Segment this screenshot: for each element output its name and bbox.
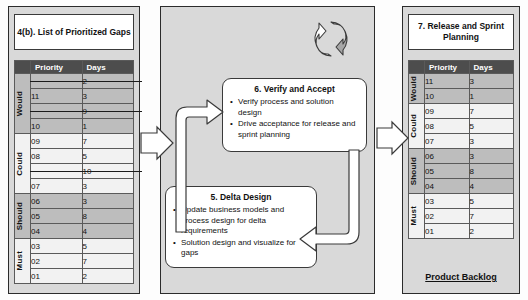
box6-bullet-2: Drive acceptance for release and sprint … (230, 119, 359, 140)
priority-cell: 04 (31, 224, 83, 239)
table-row: Should063 (15, 194, 134, 209)
process-box-delta-design: 5. Delta Design Update business models a… (165, 186, 317, 268)
table-row: 073 (409, 134, 514, 149)
days-cell: 4 (82, 224, 134, 239)
days-cell: 10 (82, 164, 134, 179)
priority-cell: 06 (425, 149, 470, 164)
box5-bullet-2: Solution design and visualize for gaps (173, 238, 309, 259)
days-cell: 5 (82, 149, 134, 164)
category-cell-would: Would (409, 74, 425, 104)
product-backlog-table: PriorityDaysWould113101Could097085073Sho… (408, 60, 514, 239)
days-cell: 5 (469, 194, 514, 209)
days-cell: 2 (82, 269, 134, 284)
priority-cell: 10 (425, 89, 470, 104)
days-cell: 5 (469, 119, 514, 134)
category-cell-must: Must (15, 239, 31, 284)
box6-heading: 6. Verify and Accept (230, 84, 359, 94)
table-row: Could097 (15, 134, 134, 149)
table-row: 101 (15, 119, 134, 134)
priority-cell: 09 (31, 134, 83, 149)
category-label: Must (409, 206, 418, 225)
priority-cell: 03 (425, 194, 470, 209)
box6-bullets: Verify process and solution design Drive… (230, 97, 359, 140)
product-backlog-label: Product Backlog (408, 272, 514, 282)
category-cell-must: Must (409, 194, 425, 239)
priority-cell: 01 (31, 269, 83, 284)
box6-bullet-1: Verify process and solution design (230, 97, 359, 118)
days-cell: 3 (82, 179, 134, 194)
days-cell: 8 (82, 209, 134, 224)
table-row: 012 (409, 224, 514, 239)
days-cell: 3 (469, 134, 514, 149)
column-header-priority: Priority (31, 61, 83, 74)
table-row: Should063 (409, 149, 514, 164)
table-row: Would113 (409, 74, 514, 89)
table-row: 058 (409, 164, 514, 179)
priority-cell: 04 (425, 179, 470, 194)
priority-cell: 08 (425, 119, 470, 134)
column-header-days: Days (469, 61, 514, 74)
priority-cell: 07 (31, 179, 83, 194)
days-cell: 7 (82, 134, 134, 149)
column-header-priority: Priority (425, 61, 470, 74)
table-row: 058 (15, 209, 134, 224)
days-cell: 9 (82, 104, 134, 119)
box5-bullets: Update business models and process desig… (173, 205, 309, 259)
category-cell-could: Could (409, 104, 425, 149)
days-cell: 1 (469, 89, 514, 104)
category-label: Should (15, 202, 24, 230)
priority-cell: 01 (425, 224, 470, 239)
table-row-struck: 9 (15, 104, 134, 119)
priority-cell: 11 (425, 74, 470, 89)
priority-cell: 05 (425, 164, 470, 179)
priority-cell: 07 (425, 134, 470, 149)
priority-cell: 10 (31, 119, 83, 134)
table-row: Must035 (409, 194, 514, 209)
days-cell: 7 (469, 104, 514, 119)
days-cell: 7 (469, 209, 514, 224)
priority-cell (31, 74, 83, 89)
table-row: 012 (15, 269, 134, 284)
category-cell-would: Would (15, 74, 31, 134)
days-cell: 8 (469, 164, 514, 179)
days-cell: 2 (469, 224, 514, 239)
priority-cell: 08 (31, 149, 83, 164)
category-label: Could (409, 114, 418, 138)
days-cell: 3 (469, 74, 514, 89)
box5-bullet-1: Update business models and process desig… (173, 205, 309, 237)
table-row: 044 (15, 224, 134, 239)
priority-cell: 09 (425, 104, 470, 119)
days-cell: 3 (82, 194, 134, 209)
table-header-row: PriorityDays (409, 61, 514, 74)
table-row: 085 (409, 119, 514, 134)
category-label: Could (15, 152, 24, 176)
category-label: Must (15, 251, 24, 270)
table-row: 027 (409, 209, 514, 224)
left-panel-heading: 4(b). List of Prioritized Gaps (14, 14, 134, 50)
table-row: 027 (15, 254, 134, 269)
priority-cell: 02 (425, 209, 470, 224)
box5-heading: 5. Delta Design (173, 192, 309, 202)
days-cell: 3 (82, 89, 134, 104)
table-row: 113 (15, 89, 134, 104)
right-panel-heading: 7. Release and Sprint Planning (408, 14, 514, 50)
priority-cell: 03 (31, 239, 83, 254)
table-row-struck: 10 (15, 164, 134, 179)
column-header-days: Days (82, 61, 134, 74)
table-row: 044 (409, 179, 514, 194)
category-cell-could: Could (15, 134, 31, 194)
days-cell: 7 (82, 254, 134, 269)
priority-cell (31, 164, 83, 179)
table-header-row: PriorityDays (15, 61, 134, 74)
days-cell: 2 (82, 74, 134, 89)
table-row: Must035 (15, 239, 134, 254)
priority-cell: 05 (31, 209, 83, 224)
column-header-category (15, 61, 31, 74)
table-row: Could097 (409, 104, 514, 119)
priority-cell: 06 (31, 194, 83, 209)
prioritized-gaps-table: PriorityDaysWould21139101Could0970851007… (14, 60, 134, 284)
days-cell: 4 (469, 179, 514, 194)
table-row-struck: Would2 (15, 74, 134, 89)
category-cell-should: Should (409, 149, 425, 194)
column-header-category (409, 61, 425, 74)
